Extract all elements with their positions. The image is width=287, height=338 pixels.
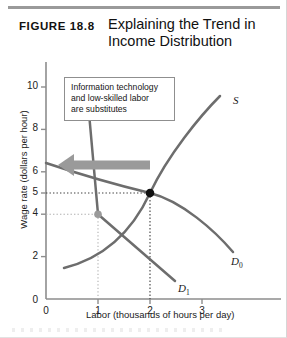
bottom-text-artifact	[12, 328, 222, 332]
figure-container: FIGURE 18.8 Explaining the Trend in Inco…	[0, 0, 287, 338]
figure-header: FIGURE 18.8 Explaining the Trend in Inco…	[0, 14, 287, 58]
x-axis-title: Labor (thousands of hours per day)	[86, 309, 234, 320]
demand-initial-letter: D	[231, 255, 239, 267]
chart-plot-area: 10 8 6 5 4 2 0 0 1 2 3 Wage rate (dollar…	[0, 56, 287, 324]
annotation-line-1: Information technology	[71, 82, 169, 93]
annotation-line-2: and low-skilled labor	[71, 93, 169, 104]
demand-curve-initial-label: D0	[231, 255, 243, 270]
figure-title-line-1: Explaining the Trend in	[108, 16, 283, 33]
figure-title-line-2: Income Distribution	[108, 33, 283, 50]
equilibrium-point-initial	[146, 189, 155, 198]
annotation-textbox: Information technology and low-skilled l…	[64, 77, 175, 121]
x-tick-label-0: 0	[38, 305, 54, 316]
annotation-line-3: are substitutes	[71, 104, 169, 115]
demand-curve-new-label: D1	[178, 282, 190, 297]
figure-label: FIGURE 18.8	[19, 20, 95, 32]
top-rule-divider	[8, 6, 280, 9]
supply-curve-label: S	[233, 94, 239, 106]
demand-curve-initial	[46, 163, 233, 252]
y-tick-label-0: 0	[22, 294, 38, 305]
demand-new-letter: D	[178, 282, 186, 294]
demand-initial-subscript: 0	[239, 261, 243, 270]
y-axis-title: Wage rate (dollars per hour)	[18, 85, 29, 255]
demand-new-subscript: 1	[186, 288, 190, 297]
supply-curve	[64, 96, 220, 268]
equilibrium-point-new	[94, 210, 102, 218]
shift-arrow-icon	[58, 154, 150, 176]
figure-title: Explaining the Trend in Income Distribut…	[108, 16, 283, 50]
